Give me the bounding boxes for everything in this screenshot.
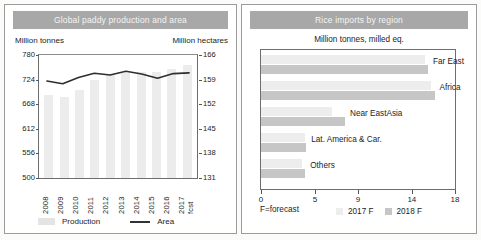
imports-bar-2018 [261, 117, 345, 126]
right-axis-tick-mark [199, 80, 202, 81]
x-axis-label: 2012 [101, 181, 110, 214]
area-line [39, 55, 197, 178]
right-axis-tick-mark [199, 55, 202, 56]
imports-x-tick-label: 0 [259, 195, 263, 204]
imports-category-label: Near EastAsia [350, 109, 402, 118]
imports-bar-2017 [261, 159, 302, 168]
left-axis-tick-label: 668 [13, 99, 35, 108]
left-axis-tick-label: 724 [13, 75, 35, 84]
left-chart-legend: Production Area [38, 217, 213, 226]
x-axis-labels: 2008200920102011201220132014201520162017… [38, 181, 198, 214]
legend-label-production: Production [62, 217, 100, 226]
imports-x-tick-mark [315, 190, 316, 194]
imports-plot-area: Far EastAfricaNear EastAsiaLat. America … [260, 49, 456, 190]
x-axis-label-part: 2013 [117, 181, 126, 214]
imports-row: Near EastAsia [261, 106, 455, 130]
x-axis-label-part: 2017 [177, 181, 186, 214]
x-axis-label-part: 2014 [132, 181, 141, 214]
area-line-swatch-icon [130, 221, 150, 223]
imports-category-label: Far East [433, 57, 464, 66]
x-axis-label: 2013 [117, 181, 126, 214]
legend-label-2018: 2018 F [397, 207, 423, 216]
imports-row: Africa [261, 80, 455, 104]
year-2018-swatch-icon [385, 208, 392, 215]
imports-x-tick-label: 5 [313, 195, 317, 204]
imports-x-tick-mark [358, 190, 359, 194]
right-axis-tick-mark [199, 104, 202, 105]
x-axis-label: 2016 [162, 181, 171, 214]
imports-bar-2018 [261, 91, 435, 100]
imports-bar-2017 [261, 81, 431, 90]
x-axis-label: 2009 [56, 181, 65, 214]
legend-label-2017: 2017 F [348, 207, 374, 216]
production-swatch-icon [38, 218, 55, 225]
right-axis-tick-mark [199, 153, 202, 154]
imports-row: Far East [261, 54, 455, 78]
left-chart-panel: Global paddy production and area Million… [4, 4, 237, 234]
imports-x-axis: 0591418 [260, 190, 456, 202]
imports-bar-2017 [261, 133, 305, 142]
left-axis-tick-mark [36, 55, 39, 56]
paddy-plot-area [38, 54, 198, 179]
left-axis-caption: Million tonnes [15, 36, 64, 45]
imports-category-label: Others [310, 161, 335, 170]
x-axis-label: 2011 [86, 181, 95, 214]
legend-label-area: Area [157, 217, 174, 226]
x-axis-label-part: 2009 [56, 181, 65, 214]
right-chart-legend: 2017 F 2018 F [336, 207, 422, 216]
right-panel-title: Rice imports by region [250, 11, 468, 29]
imports-category-label: Africa [440, 83, 461, 92]
imports-x-tick-label: 9 [356, 195, 360, 204]
imports-bar-2017 [261, 55, 425, 64]
right-axis-tick-mark [199, 178, 202, 179]
right-chart-subcaption: Million tonnes, milled eq. [242, 35, 476, 44]
x-axis-label-part: 2010 [71, 181, 80, 214]
left-axis-tick-label: 612 [13, 124, 35, 133]
imports-row: Lat. America & Car. [261, 132, 455, 156]
left-axis-tick-mark [36, 129, 39, 130]
imports-x-tick-mark [412, 190, 413, 194]
imports-x-tick-mark [455, 190, 456, 194]
x-axis-label-part: 2012 [101, 181, 110, 214]
x-axis-label: 2015 [147, 181, 156, 214]
imports-bar-2018 [261, 143, 306, 152]
left-axis-tick-mark [36, 178, 39, 179]
x-axis-label-part: fcst [186, 181, 195, 214]
left-axis-tick-label: 556 [13, 148, 35, 157]
imports-x-tick-label: 18 [451, 195, 460, 204]
imports-x-tick-label: 14 [407, 195, 416, 204]
x-axis-label-part: 2011 [86, 181, 95, 214]
left-panel-title: Global paddy production and area [13, 11, 228, 29]
right-axis-tick-mark [199, 129, 202, 130]
imports-category-label: Lat. America & Car. [311, 135, 382, 144]
left-axis-tick-label: 780 [13, 50, 35, 59]
forecast-footnote: F=forecast [260, 205, 299, 214]
left-axis-tick-mark [36, 80, 39, 81]
year-2017-swatch-icon [336, 208, 343, 215]
x-axis-label: 2010 [71, 181, 80, 214]
x-axis-label-part: 2008 [41, 181, 50, 214]
imports-bar-2018 [261, 169, 305, 178]
left-axis-tick-mark [36, 104, 39, 105]
imports-x-tick-mark [261, 190, 262, 194]
x-axis-label-part: 2016 [162, 181, 171, 214]
imports-bar-2017 [261, 107, 332, 116]
x-axis-label-part: 2015 [147, 181, 156, 214]
left-axis-tick-label: 500 [13, 173, 35, 182]
right-axis-caption: Million hectares [172, 36, 228, 45]
x-axis-label: 2017fcst [177, 181, 195, 214]
right-chart-panel: Rice imports by region Million tonnes, m… [241, 4, 477, 234]
x-axis-label: 2008 [41, 181, 50, 214]
imports-row: Others [261, 158, 455, 182]
left-axis-tick-mark [36, 153, 39, 154]
imports-bar-2018 [261, 65, 428, 74]
dual-chart-figure: Global paddy production and area Million… [0, 0, 481, 240]
x-axis-label: 2014 [132, 181, 141, 214]
